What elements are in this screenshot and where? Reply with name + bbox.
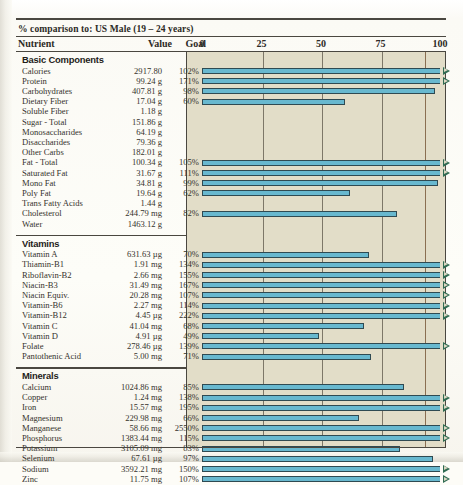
nutrient-goal-percent: 134% <box>166 259 199 269</box>
nutrient-name: Riboflavin-B2 <box>22 270 72 280</box>
report-body: Basic ComponentsCalories2917.80102%Prote… <box>16 51 446 448</box>
nutrient-name: Folate <box>22 341 43 351</box>
nutrient-name: Magnesium <box>22 413 63 423</box>
section-header-label: Basic Components <box>22 54 104 65</box>
nutrient-name: Saturated Fat <box>22 168 68 178</box>
column-header-row: Nutrient Value Goal % 0255075100 <box>16 37 446 51</box>
nutrient-name: Zinc <box>22 474 38 484</box>
nutrient-row: Manganese58.66 mg2550% <box>16 424 446 434</box>
nutrient-name: Mono Fat <box>22 178 56 188</box>
nutrient-value: 229.98 mg <box>88 413 162 423</box>
nutrient-goal-percent: 171% <box>166 76 199 86</box>
nutrient-row: Monosaccharides64.19 g <box>16 128 446 138</box>
section-header-vitamins: Vitamins <box>16 238 446 250</box>
nutrient-name: Vitamin C <box>22 321 58 331</box>
nutrient-goal-percent: 138% <box>166 392 199 402</box>
nutrient-goal-percent: 150% <box>166 464 199 474</box>
nutrient-goal-percent: 115% <box>166 433 199 443</box>
nutrient-name: Water <box>22 219 42 229</box>
nutrient-value: 17.04 g <box>88 96 162 106</box>
nutrient-value: 3105.09 mg <box>88 443 162 453</box>
nutrient-name: Pantothenic Acid <box>22 351 81 361</box>
nutrient-name: Sodium <box>22 464 49 474</box>
nutrient-name: Vitamin D <box>22 331 58 341</box>
nutrient-row: Riboflavin-B22.66 mg155% <box>16 271 446 281</box>
nutrient-name: Dietary Fiber <box>22 96 68 106</box>
nutrient-value: 79.36 g <box>88 137 162 147</box>
nutrient-row: Zinc11.75 mg107% <box>16 475 446 485</box>
report-subtitle: % comparison to: US Male (19 – 24 years) <box>16 23 446 36</box>
nutrient-row: Pantothenic Acid5.00 mg71% <box>16 352 446 362</box>
axis-tick-25: 25 <box>257 38 267 49</box>
nutrient-name: Potassium <box>22 443 57 453</box>
nutrient-goal-percent: 105% <box>166 157 199 167</box>
nutrient-goal-percent: 155% <box>166 270 199 280</box>
nutrient-goal-percent: 107% <box>166 474 199 484</box>
nutrient-row: Saturated Fat31.67 g111% <box>16 169 446 179</box>
axis-tick-75: 75 <box>376 38 386 49</box>
nutrient-row: Vitamin C41.04 mg68% <box>16 322 446 332</box>
nutrient-value: 64.19 g <box>88 127 162 137</box>
nutrient-goal-percent: 68% <box>166 321 199 331</box>
nutrient-goal-percent: 107% <box>166 290 199 300</box>
nutrient-value: 1383.44 mg <box>88 433 162 443</box>
nutrient-goal-percent: 62% <box>166 188 199 198</box>
nutrient-name: Copper <box>22 392 47 402</box>
nutrient-goal-percent: 97% <box>166 453 199 463</box>
nutrient-row: Water1463.12 g <box>16 220 446 230</box>
nutrient-row: Copper1.24 mg138% <box>16 393 446 403</box>
nutrient-value: 1.18 g <box>88 106 162 116</box>
nutrient-value: 15.57 mg <box>88 402 162 412</box>
nutrient-row: Trans Fatty Acids1.44 g <box>16 199 446 209</box>
nutrient-value: 31.49 mg <box>88 280 162 290</box>
nutrient-goal-percent: 83% <box>166 443 199 453</box>
nutrient-goal-percent: 2550% <box>166 423 199 433</box>
nutrient-value: 58.66 mg <box>88 423 162 433</box>
nutrient-name: Selenium <box>22 453 54 463</box>
nutrient-row: Niacin-B331.49 mg167% <box>16 281 446 291</box>
section-header-minerals: Minerals <box>16 370 446 382</box>
nutrient-row: Soluble Fiber1.18 g <box>16 107 446 117</box>
nutrient-value: 19.64 g <box>88 188 162 198</box>
nutrient-row: Cholesterol244.79 mg82% <box>16 209 446 219</box>
nutrient-name: Vitamin-B6 <box>22 300 63 310</box>
nutrient-value: 11.75 mg <box>88 474 162 484</box>
nutrient-value: 2.66 mg <box>88 270 162 280</box>
nutrient-value: 244.79 mg <box>88 208 162 218</box>
nutrient-name: Manganese <box>22 423 61 433</box>
nutrient-row: Calcium1024.86 mg85% <box>16 383 446 393</box>
nutrient-row: Vitamin D4.91 µg49% <box>16 332 446 342</box>
nutrient-name: Calories <box>22 66 51 76</box>
nutrient-goal-percent: 167% <box>166 280 199 290</box>
nutrient-goal-percent: 66% <box>166 413 199 423</box>
nutrient-name: Niacin-B3 <box>22 280 58 290</box>
nutrient-value: 1463.12 g <box>88 219 162 229</box>
nutrient-value: 5.00 mg <box>88 351 162 361</box>
nutrient-goal-percent: 114% <box>166 300 199 310</box>
nutrient-value: 20.28 mg <box>88 290 162 300</box>
nutrient-row: Other Carbs182.01 g <box>16 148 446 158</box>
nutrient-name: Trans Fatty Acids <box>22 198 83 208</box>
nutrient-row: Disaccharides79.36 g <box>16 138 446 148</box>
nutrient-name: Niacin Equiv. <box>22 290 69 300</box>
nutrient-value: 99.24 g <box>88 76 162 86</box>
nutrient-goal-percent: 85% <box>166 382 199 392</box>
chart-axis-tick-labels: 0255075100 <box>16 38 446 50</box>
nutrient-row: Mono Fat34.81 g99% <box>16 179 446 189</box>
nutrient-goal-percent: 49% <box>166 331 199 341</box>
nutrient-row: Sodium3592.21 mg150% <box>16 465 446 475</box>
nutrient-row: Selenium67.61 µg97% <box>16 454 446 464</box>
axis-tick-0: 0 <box>200 38 205 49</box>
nutrient-row: Vitamin-B124.45 µg222% <box>16 311 446 321</box>
section-divider <box>16 235 186 236</box>
nutrient-name: Thiamin-B1 <box>22 259 64 269</box>
nutrient-name: Sugar - Total <box>22 117 67 127</box>
header-rule-top <box>16 18 446 20</box>
nutrient-value: 1.24 mg <box>88 392 162 402</box>
nutrient-row: Thiamin-B11.91 mg134% <box>16 260 446 270</box>
section-header-label: Vitamins <box>22 238 59 249</box>
nutrient-name: Monosaccharides <box>22 127 82 137</box>
nutrient-value: 2917.80 <box>88 66 162 76</box>
axis-tick-100: 100 <box>433 38 448 49</box>
